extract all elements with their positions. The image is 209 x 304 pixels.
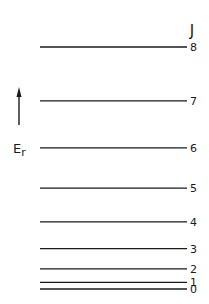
energy-level-diagram: 012345678 J Er	[0, 0, 209, 304]
quantum-number-header: J	[189, 22, 194, 40]
energy-symbol: E	[13, 141, 21, 156]
energy-level-label-j5: 5	[190, 182, 197, 195]
energy-axis-arrow	[17, 87, 22, 125]
energy-levels: 012345678	[40, 41, 197, 296]
energy-level-label-j1: 1	[190, 276, 197, 289]
energy-level-label-j7: 7	[190, 95, 197, 108]
energy-subscript: r	[21, 146, 26, 159]
energy-level-label-j6: 6	[190, 142, 197, 155]
energy-level-label-j4: 4	[190, 216, 197, 229]
energy-level-label-j3: 3	[190, 243, 197, 256]
arrow-up-icon	[17, 87, 22, 97]
energy-level-label-j2: 2	[190, 263, 197, 276]
energy-axis-label: Er	[13, 141, 26, 159]
energy-level-label-j8: 8	[190, 41, 197, 54]
